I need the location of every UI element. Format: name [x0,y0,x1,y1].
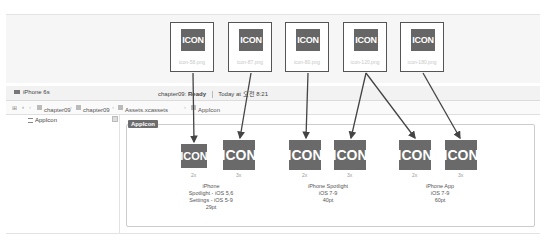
scale-label: 3x [347,172,352,178]
file-name: icon-180.png [403,59,441,65]
scale-label: 2x [302,172,307,178]
slot-29pt-2x[interactable]: ICON [181,144,207,168]
scheme-device-selector[interactable]: iPhone 6s [14,89,50,95]
slot-60pt-3x[interactable]: ICON [445,140,477,170]
folder-icon [76,105,81,110]
scale-label: 3x [458,172,463,178]
window-titlebar: iPhone 6s chapter09: Ready Today at 오전 8… [6,86,540,101]
jump-bar: ⊞ ‹ › chapter09 › chapter09 › Assets.xca… [6,101,540,115]
folder-icon [118,105,123,110]
icon-image: ICON [354,29,378,51]
icon-image: ICON [411,29,435,51]
set-title: AppIcon [128,120,158,128]
file-name: icon-80.png [288,59,326,65]
status-time: Today at 오전 8:21 [218,91,268,97]
asset-icon [191,105,196,110]
asset-list-sidebar: AppIcon [6,115,120,234]
slot-40pt-3x[interactable]: ICON [334,140,366,170]
grid-icon[interactable]: ⊞ [12,104,17,111]
device-name: iPhone 6s [23,89,50,95]
scale-label: 2x [412,172,417,178]
file-name: icon-58.png [173,59,211,65]
slot-40pt-2x[interactable]: ICON [289,140,321,170]
remove-button[interactable] [112,116,118,122]
source-file-4[interactable]: ICON icon-120.png [343,22,387,72]
source-files-area: ICON icon-58.png ICON icon-87.png ICON i… [0,0,546,86]
breadcrumb-3[interactable]: Assets.xcassets [118,104,125,110]
list-icon [28,118,33,123]
file-name: icon-87.png [231,59,269,65]
source-files-band [6,14,540,83]
build-state: Ready [188,91,206,97]
icon-image: ICON [239,29,263,51]
breadcrumb-1[interactable]: chapter09 [37,104,44,110]
device-icon [14,90,20,94]
source-file-2[interactable]: ICON icon-87.png [228,22,272,72]
forward-button[interactable]: › [29,104,31,110]
slot-group-description: iPhone Spotlight - iOS 5,6 Settings - iO… [166,183,256,211]
breadcrumb-2[interactable]: chapter09 [76,104,83,110]
back-button[interactable]: ‹ [22,104,24,110]
chevron-right-icon: › [112,104,114,110]
slot-29pt-3x[interactable]: ICON [223,140,255,170]
breadcrumb-4[interactable]: AppIcon [191,104,198,110]
slot-group-description: iPhone App iOS 7-9 60pt [395,183,485,204]
scale-label: 2x [191,172,196,178]
project-name: chapter09: [158,91,186,97]
file-icon [37,105,42,110]
scale-label: 3x [236,172,241,178]
file-name: icon-120.png [346,59,384,65]
source-file-1[interactable]: ICON icon-58.png [170,22,214,72]
activity-status: chapter09: Ready Today at 오전 8:21 [158,89,268,98]
source-file-3[interactable]: ICON icon-80.png [285,22,329,72]
source-file-5[interactable]: ICON icon-180.png [400,22,444,72]
sidebar-item-appicon[interactable]: AppIcon [28,117,57,123]
icon-image: ICON [296,29,320,51]
divider [212,91,213,98]
slot-group-description: iPhone Spotlight iOS 7-9 40pt [283,183,373,204]
slot-60pt-2x[interactable]: ICON [399,140,431,170]
chevron-right-icon: › [70,104,72,110]
chevron-right-icon: › [184,104,186,110]
icon-image: ICON [181,29,205,51]
